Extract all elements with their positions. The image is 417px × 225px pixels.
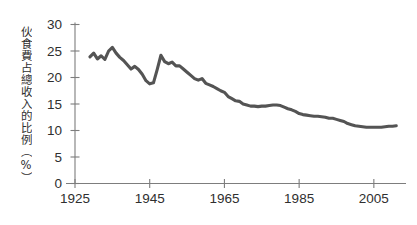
x-tick-label: 1945	[135, 191, 165, 206]
x-tick-label: 1925	[60, 191, 90, 206]
y-tick-label: 0	[54, 176, 62, 191]
x-tick-label: 1965	[209, 191, 239, 206]
chart-axes	[66, 23, 406, 189]
y-tick-label: 30	[47, 17, 62, 32]
x-tick-label: 2005	[359, 191, 389, 206]
food-expenditure-share-chart: 伙食費占總收入的比例（%） 051015202530 1925194519651…	[0, 0, 417, 225]
data-line-series	[90, 47, 396, 127]
y-axis-tick-labels: 051015202530	[47, 17, 62, 191]
chart-canvas: 051015202530 19251945196519852005	[0, 0, 417, 225]
data-series-group	[90, 47, 396, 127]
x-tick-label: 1985	[284, 191, 314, 206]
y-tick-label: 20	[47, 70, 62, 85]
y-tick-label: 10	[47, 123, 62, 138]
y-tick-label: 25	[47, 44, 62, 59]
x-axis-tick-labels: 19251945196519852005	[60, 191, 389, 206]
y-tick-label: 15	[47, 97, 62, 112]
y-tick-label: 5	[54, 150, 62, 165]
